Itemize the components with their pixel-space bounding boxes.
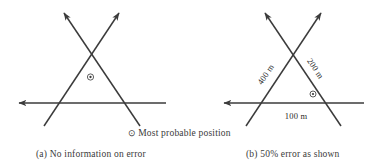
panel-a-bearing-line-left: [64, 13, 140, 126]
panel-b-bearing-line-right: [246, 13, 321, 126]
caption-panel-a-text: (a) No information on error: [36, 149, 146, 159]
position-marker-icon: ⊙: [128, 128, 136, 138]
figure-canvas: 400 m 200 m 100 m: [0, 0, 384, 166]
legend-label: Most probable position: [138, 128, 231, 138]
label-baseline-distance: 100 m: [285, 111, 308, 121]
caption-panel-a: (a) No information on error: [36, 149, 146, 159]
panel-b-bearing-line-left: [265, 13, 341, 126]
panel-a-bearing-line-right: [44, 13, 119, 126]
legend: ⊙Most probable position: [128, 128, 231, 138]
figure-page: 400 m 200 m 100 m ⊙Most probable positio…: [0, 0, 384, 166]
panel-b-position-marker: [310, 91, 316, 97]
caption-panel-b: (b) 50% error as shown: [246, 149, 340, 159]
panel-a-diagram: [19, 13, 166, 126]
panel-a-position-marker: [87, 74, 93, 80]
label-left-bearing-distance: 400 m: [255, 62, 276, 86]
caption-panel-b-text: (b) 50% error as shown: [246, 149, 340, 159]
panel-b-diagram: 400 m 200 m 100 m: [224, 13, 364, 126]
